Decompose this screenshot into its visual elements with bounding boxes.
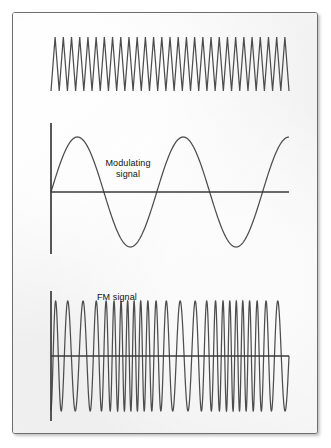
modulating-signal-label: Modulating signal bbox=[91, 158, 165, 180]
modulating-waveform-group bbox=[51, 123, 289, 254]
figure-panel: Modulating signal FM signal bbox=[12, 12, 318, 434]
fm-waveform-group bbox=[51, 291, 289, 421]
fm-signal-label: FM signal bbox=[97, 292, 171, 303]
carrier-waveform bbox=[51, 37, 289, 91]
waveform-plot-area bbox=[13, 13, 318, 434]
carrier-waveform-group bbox=[51, 37, 289, 91]
figure-root: Modulating signal FM signal bbox=[0, 0, 331, 448]
